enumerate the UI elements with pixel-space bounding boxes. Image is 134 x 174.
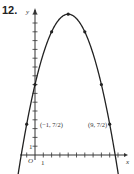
- left-point-label: (−1, 7/2): [40, 121, 63, 129]
- data-point: [83, 30, 86, 33]
- data-point: [67, 13, 70, 16]
- data-point: [100, 83, 103, 86]
- x-axis-label: x: [125, 158, 130, 166]
- data-point: [50, 30, 53, 33]
- parabola-graph: yxO11(−1, 7/2)(9, 7/2): [0, 0, 134, 174]
- data-point: [108, 123, 111, 126]
- y-axis-arrow-icon: [33, 8, 37, 14]
- data-point: [25, 123, 28, 126]
- right-point-label: (9, 7/2): [88, 121, 107, 129]
- origin-label: O: [28, 157, 33, 165]
- y-axis-label: y: [25, 8, 30, 16]
- parabola-curve: [18, 14, 119, 174]
- data-point: [33, 83, 36, 86]
- x-unit-label: 1: [41, 159, 45, 167]
- y-unit-label: 1: [29, 143, 33, 151]
- x-axis-arrow-icon: [124, 153, 128, 157]
